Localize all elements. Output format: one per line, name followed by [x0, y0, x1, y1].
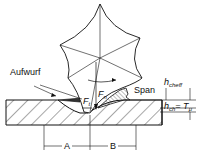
fn-label: Fn	[98, 90, 107, 100]
hch-label: hch= Tμ	[164, 102, 192, 112]
ft-label: Ft	[83, 97, 90, 107]
span-label: Span	[134, 86, 155, 95]
aufwurf-label: Aufwurf	[10, 68, 41, 77]
dimension-b-label: B	[108, 142, 118, 151]
abrasive-grain-diagram	[0, 0, 223, 157]
dimension-a-label: A	[62, 142, 72, 151]
aufwurf-ridge	[58, 98, 82, 102]
hcheff-label: hcheff	[164, 78, 182, 88]
